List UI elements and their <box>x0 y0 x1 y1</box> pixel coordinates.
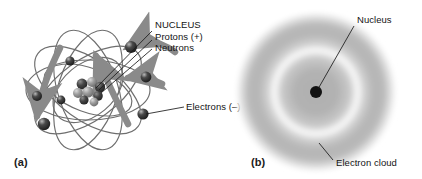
panel-a-planetary-model: NUCLEUS Protons (+) Neutrons Electrons (… <box>0 0 211 179</box>
nucleus-protons-text: Protons (+) <box>155 31 203 43</box>
nucleon-neutron <box>79 95 88 104</box>
electron-cloud-label: Electron cloud <box>336 157 397 169</box>
atomic-models-figure: NUCLEUS Protons (+) Neutrons Electrons (… <box>0 0 422 179</box>
nucleus-callout-label: NUCLEUS Protons (+) Neutrons <box>155 19 203 54</box>
nucleus-neutrons-text: Neutrons <box>155 42 203 54</box>
electron <box>125 41 137 53</box>
panel-b-electron-cloud-model: Nucleus Electron cloud (b) <box>211 0 422 179</box>
electron <box>32 91 42 101</box>
panel-b-caption: (b) <box>251 156 265 168</box>
panel-b-graphic <box>211 0 422 179</box>
electron <box>141 72 152 83</box>
electron <box>65 56 74 65</box>
electron <box>38 118 50 130</box>
panel-a-caption: (a) <box>14 156 28 168</box>
electron <box>57 96 66 105</box>
nucleus-label-b: Nucleus <box>357 14 392 26</box>
nucleus-title: NUCLEUS <box>155 19 203 31</box>
nucleon-proton <box>90 98 99 107</box>
nucleus-dot <box>310 86 322 98</box>
leader-line-neutrons <box>101 49 152 93</box>
nucleus-cluster <box>73 77 105 106</box>
leader-line-electrons <box>146 107 184 114</box>
